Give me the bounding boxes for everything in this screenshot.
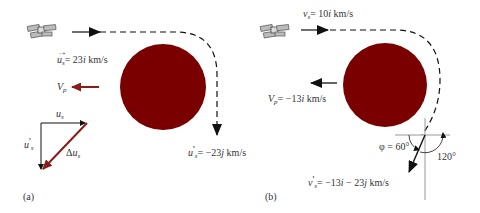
vector-arrow-mark: → xyxy=(57,46,67,57)
planet-velocity-label: Vp= −13i km/s xyxy=(268,93,326,106)
triangle-left-label: u's xyxy=(24,136,34,152)
panel-a: us= 23i km/s → Vp us u's Δus u's= −23j k… xyxy=(23,24,246,203)
triangle-diagonal-label: Δus xyxy=(66,147,80,160)
outgoing-arrow xyxy=(409,135,425,172)
planet xyxy=(120,44,206,130)
planet-velocity-label: Vp xyxy=(57,81,67,94)
incoming-velocity-label: vs= 10i km/s xyxy=(303,8,353,21)
gravity-assist-diagram: us= 23i km/s → Vp us u's Δus u's= −23j k… xyxy=(0,0,480,213)
outgoing-velocity-label: v's= −13i − 23j km/s xyxy=(308,174,389,190)
angle-120-label: 120° xyxy=(437,151,456,162)
outgoing-velocity-label: u's= −23j km/s xyxy=(188,144,246,160)
phi-arc xyxy=(409,135,419,150)
panel-b-label: (b) xyxy=(265,191,277,203)
panel-a-label: (a) xyxy=(23,191,34,203)
phi-label: φ = 60° xyxy=(379,141,409,152)
vector-triangle: us u's Δus xyxy=(24,108,87,169)
satellite-icon xyxy=(27,24,56,38)
panel-b: vs= 10i km/s Vp= −13i km/s φ = 60° 120° … xyxy=(260,8,456,203)
satellite-icon xyxy=(260,24,289,38)
angle-120-arc xyxy=(420,133,443,153)
planet xyxy=(343,43,427,127)
triangle-top-label: us xyxy=(56,108,64,121)
